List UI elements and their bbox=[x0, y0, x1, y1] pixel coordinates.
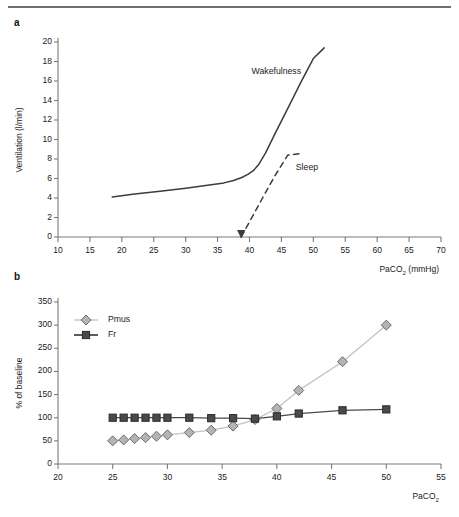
panel_b-marker-fr bbox=[164, 414, 171, 421]
panel_b-x-tick-label: 45 bbox=[312, 472, 352, 482]
panel_b-marker-fr bbox=[131, 414, 138, 421]
panel_a-y-tick-label: 0 bbox=[22, 231, 52, 241]
panel_b-legend-marker-pmus bbox=[81, 315, 91, 325]
panel_b-marker-fr bbox=[383, 406, 390, 413]
panel_b-marker-pmus bbox=[228, 421, 238, 431]
panel_a-y-tick-label: 12 bbox=[22, 114, 52, 124]
panel_b-series-pmus-line bbox=[113, 325, 387, 441]
panel_b-y-tick-label: 200 bbox=[22, 365, 52, 375]
panel_b-marker-pmus bbox=[119, 435, 129, 445]
panel_b-marker-fr bbox=[295, 410, 302, 417]
panel_b-y-tick-label: 150 bbox=[22, 389, 52, 399]
panel_a-y-tick-label: 2 bbox=[22, 212, 52, 222]
panel_b-legend-label-fr: Fr bbox=[108, 329, 116, 339]
panel_b-marker-fr bbox=[273, 413, 280, 420]
panel_b-marker-fr bbox=[120, 414, 127, 421]
panel_a-y-tick-label: 4 bbox=[22, 192, 52, 202]
panel_a-y-tick-label: 18 bbox=[22, 56, 52, 66]
panel_b-marker-pmus bbox=[141, 433, 151, 443]
panel_b-x-tick-label: 20 bbox=[38, 472, 78, 482]
panel_b-marker-fr bbox=[208, 415, 215, 422]
panel_b-marker-fr bbox=[229, 415, 236, 422]
panel_b-y-tick-label: 350 bbox=[22, 296, 52, 306]
panel_a-x-tick-label: 70 bbox=[421, 245, 459, 255]
panel_b-marker-pmus bbox=[151, 431, 161, 441]
panel_a-y-tick-label: 10 bbox=[22, 134, 52, 144]
panel_b-marker-fr bbox=[186, 414, 193, 421]
panel_b-marker-pmus bbox=[206, 425, 216, 435]
panel_b-x-tick-label: 25 bbox=[93, 472, 133, 482]
panel_b-marker-fr bbox=[153, 414, 160, 421]
panel_a-y-tick-label: 14 bbox=[22, 95, 52, 105]
panel_b-marker-fr bbox=[109, 414, 116, 421]
chart-drawing-layer bbox=[0, 0, 459, 517]
panel_b-legend-label-pmus: Pmus bbox=[108, 314, 130, 324]
panel_b-marker-fr bbox=[339, 407, 346, 414]
panel_a-series-sleep-line bbox=[241, 154, 300, 237]
panel_a-y-tick-label: 16 bbox=[22, 75, 52, 85]
panel_b-y-tick-label: 0 bbox=[22, 458, 52, 468]
panel_b-x-tick-label: 30 bbox=[147, 472, 187, 482]
panel_a-y-tick-label: 6 bbox=[22, 173, 52, 183]
panel_a-y-tick-label: 8 bbox=[22, 153, 52, 163]
panel_b-x-tick-label: 35 bbox=[202, 472, 242, 482]
panel_a-annotation-sleep: Sleep bbox=[296, 162, 318, 172]
panel_b-marker-fr bbox=[251, 415, 258, 422]
panel_b-marker-pmus bbox=[108, 436, 118, 446]
figure-container: a b 024681012141618201015202530354045505… bbox=[0, 0, 459, 517]
panel_b-marker-fr bbox=[142, 414, 149, 421]
panel_b-x-axis-title: PaCO2 bbox=[412, 491, 439, 503]
panel_b-x-tick-label: 50 bbox=[366, 472, 406, 482]
panel_b-x-tick-label: 55 bbox=[421, 472, 459, 482]
panel_b-legend-marker-fr bbox=[82, 331, 89, 338]
panel_a-y-axis-title: Ventilation (l/min) bbox=[14, 107, 24, 172]
panel_b-y-tick-label: 300 bbox=[22, 319, 52, 329]
panel_a-x-axis-title: PaCO2 (mmHg) bbox=[379, 264, 439, 276]
panel_a-y-tick-label: 20 bbox=[22, 36, 52, 46]
panel_b-marker-pmus bbox=[130, 434, 140, 444]
panel_b-y-tick-label: 50 bbox=[22, 435, 52, 445]
panel_b-marker-pmus bbox=[162, 430, 172, 440]
panel_b-y-tick-label: 250 bbox=[22, 342, 52, 352]
panel_b-x-tick-label: 40 bbox=[257, 472, 297, 482]
panel_b-marker-pmus bbox=[184, 428, 194, 438]
panel_a-annotation-wakefulness: Wakefulness bbox=[252, 66, 301, 76]
panel_b-y-axis-title: % of baseline bbox=[14, 357, 24, 408]
panel_b-y-tick-label: 100 bbox=[22, 412, 52, 422]
